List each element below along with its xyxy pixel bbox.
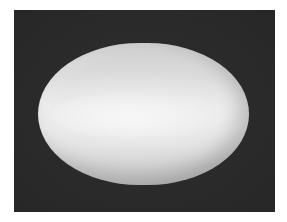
ellipsoid-shape xyxy=(38,43,249,185)
dark-background-frame xyxy=(14,10,275,212)
